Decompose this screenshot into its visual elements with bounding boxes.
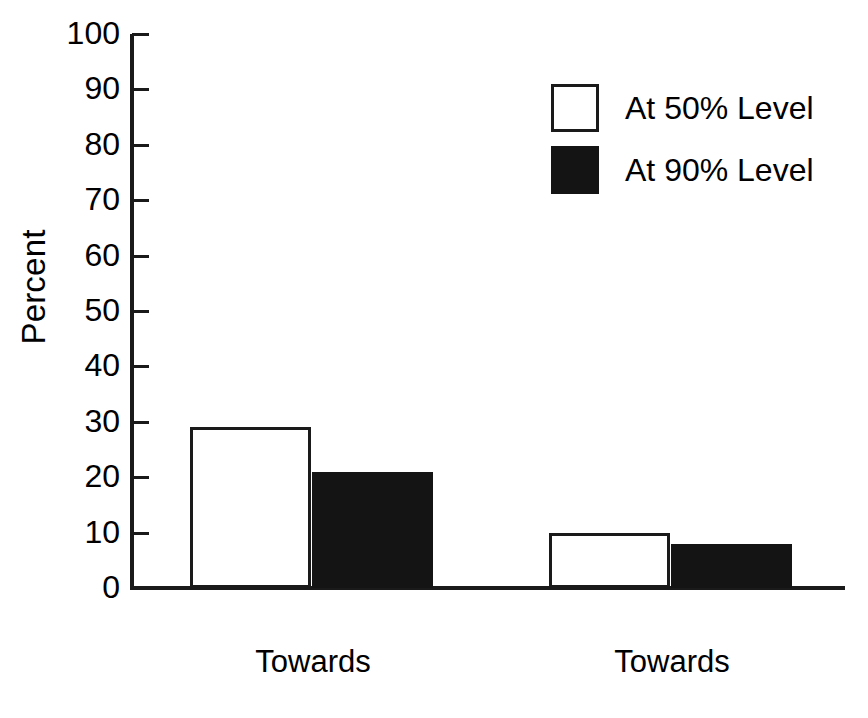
legend-swatch-open-square-icon [551, 84, 599, 132]
x-axis-category-label-0: Towards family member [133, 603, 493, 718]
legend: At 50% Level At 90% Level [551, 77, 814, 201]
legend-swatch-filled-square-icon [551, 146, 599, 194]
legend-label-1: At 90% Level [625, 152, 814, 189]
legend-item-1: At 90% Level [551, 139, 814, 201]
category-0-line-1: Towards [133, 642, 493, 681]
x-axis-category-label-1: Towards intruders [492, 603, 852, 718]
bar-group-1-series-0 [549, 533, 670, 588]
bar-group-0-series-1 [312, 472, 433, 588]
category-1-line-1: Towards [492, 642, 852, 681]
legend-item-0: At 50% Level [551, 77, 814, 139]
legend-label-0: At 50% Level [625, 90, 814, 127]
bar-group-1-series-1 [671, 544, 792, 588]
bar-group-0-series-0 [190, 427, 311, 588]
bar-chart: Percent 1009080706050403020100 Towards f… [0, 0, 868, 718]
